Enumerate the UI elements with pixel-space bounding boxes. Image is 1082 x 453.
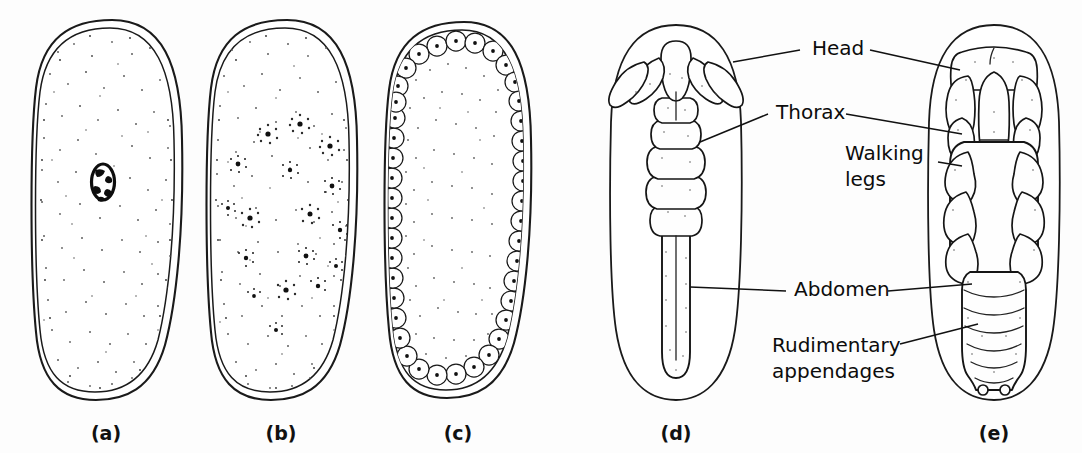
thorax-segment-4-d (650, 206, 702, 236)
panel-d: (d) (609, 25, 743, 444)
panel-c: (c) (382, 22, 533, 444)
label-thorax: Thorax (775, 100, 846, 124)
panel-caption-b: (b) (266, 422, 297, 444)
thorax-segment-2-d (647, 146, 705, 179)
panel-e: (e) (928, 25, 1060, 444)
figure-canvas: (a) (0, 0, 1082, 453)
label-walking-legs-line1: Walking (845, 141, 924, 165)
panel-caption-d: (d) (661, 422, 692, 444)
embryo-development-figure: (a) (0, 0, 1082, 453)
labrum-e (979, 72, 1010, 146)
terminal-appendage-right-e (1000, 385, 1010, 395)
thorax-segment-3-d (646, 176, 706, 209)
panel-b: (b) (207, 20, 358, 444)
terminal-appendage-left-e (978, 385, 988, 395)
egg-vitelline-outline-a (36, 28, 175, 392)
panel-caption-c: (c) (444, 422, 473, 444)
label-rudimentary-appendages-line2: appendages (772, 359, 895, 383)
egg-vitelline-outline-b (211, 28, 350, 392)
label-rudimentary-appendages-line1: Rudimentary (772, 333, 901, 357)
label-head: Head (812, 36, 864, 60)
zygote-nucleus-a (92, 164, 115, 202)
label-walking-legs-line2: legs (845, 167, 886, 191)
panel-a: (a) (32, 20, 183, 444)
panel-caption-a: (a) (91, 422, 121, 444)
label-abdomen: Abdomen (794, 277, 890, 301)
leader-head-left (733, 50, 800, 62)
thorax-segment-1-d (651, 120, 701, 149)
panel-caption-e: (e) (979, 422, 1009, 444)
